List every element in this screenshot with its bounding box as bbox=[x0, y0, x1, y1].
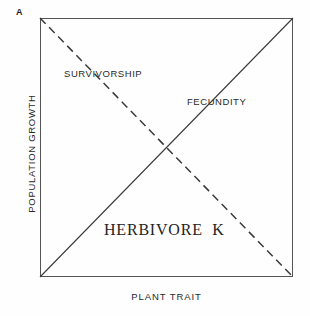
y-axis-title: POPULATION GROWTH bbox=[26, 74, 37, 234]
fecundity-annotation: FECUNDITY bbox=[187, 96, 246, 107]
herbivore-k-annotation: HERBIVORE K bbox=[104, 221, 225, 239]
survivorship-annotation: SURVIVORSHIP bbox=[64, 68, 142, 79]
figure-panel: A SURVIVORSHIP FECUNDITY HERBIVORE K POP… bbox=[0, 0, 310, 316]
panel-letter-label: A bbox=[16, 7, 23, 17]
x-axis-title: PLANT TRAIT bbox=[40, 291, 293, 302]
